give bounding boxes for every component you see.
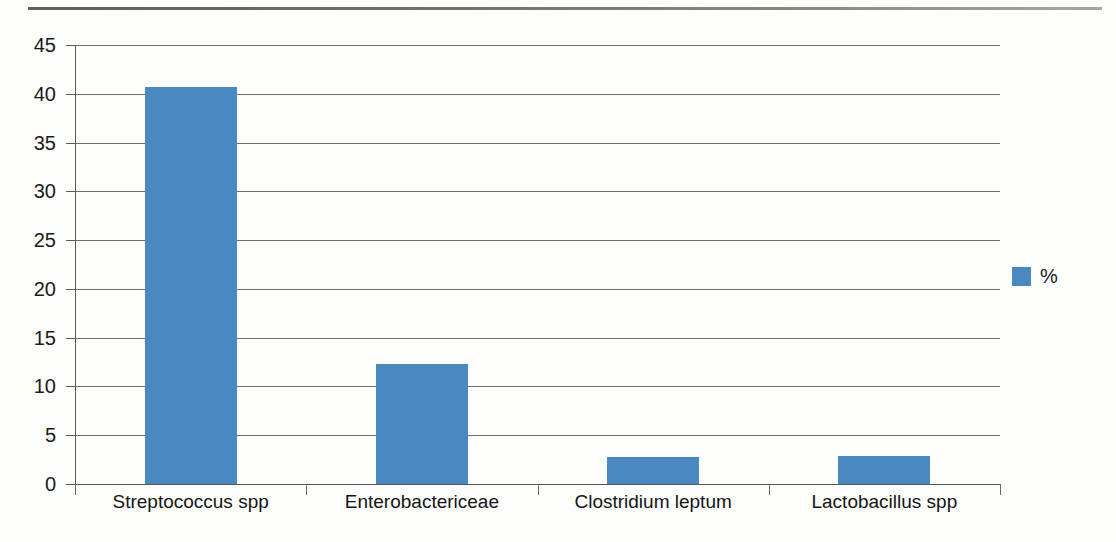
y-axis-label-10: 10 <box>34 376 56 396</box>
x-axis-label-clostridium-leptum: Clostridium leptum <box>538 492 769 513</box>
y-axis-label-20: 20 <box>34 279 56 299</box>
chart-legend: % <box>1012 266 1058 286</box>
y-axis-labels: 454035302520151050 <box>0 0 56 542</box>
y-tick-20 <box>66 289 75 290</box>
y-tick-30 <box>66 191 75 192</box>
x-axis-label-enterobactericeae: Enterobactericeae <box>306 492 537 513</box>
chart-page: 454035302520151050 Streptococcus sppEnte… <box>0 0 1116 542</box>
bar-clostridium-leptum <box>607 457 699 484</box>
y-tick-5 <box>66 435 75 436</box>
y-axis-label-45: 45 <box>34 35 56 55</box>
x-axis-tick-4 <box>1000 484 1001 495</box>
y-tick-15 <box>66 338 75 339</box>
y-axis-label-40: 40 <box>34 84 56 104</box>
y-tick-45 <box>66 45 75 46</box>
bar-chart: 454035302520151050 Streptococcus sppEnte… <box>0 0 1116 542</box>
y-axis-label-25: 25 <box>34 230 56 250</box>
y-axis-label-5: 5 <box>45 425 56 445</box>
x-axis-label-streptococcus-spp: Streptococcus spp <box>75 492 306 513</box>
y-tick-10 <box>66 386 75 387</box>
y-tick-40 <box>66 94 75 95</box>
bar-streptococcus-spp <box>145 87 237 484</box>
legend-label-percent: % <box>1040 266 1058 286</box>
y-tick-25 <box>66 240 75 241</box>
plot-area <box>75 45 1000 484</box>
bar-lactobacillus-spp <box>838 456 930 484</box>
y-axis-label-30: 30 <box>34 181 56 201</box>
legend-swatch-percent <box>1012 267 1031 286</box>
y-axis-label-0: 0 <box>45 474 56 494</box>
x-axis-label-lactobacillus-spp: Lactobacillus spp <box>769 492 1000 513</box>
y-axis-label-35: 35 <box>34 133 56 153</box>
bar-enterobactericeae <box>376 364 468 484</box>
y-tick-0 <box>66 484 75 485</box>
y-axis-label-15: 15 <box>34 328 56 348</box>
y-axis-line <box>75 45 76 485</box>
y-tick-35 <box>66 143 75 144</box>
gridline-45 <box>75 45 1000 46</box>
